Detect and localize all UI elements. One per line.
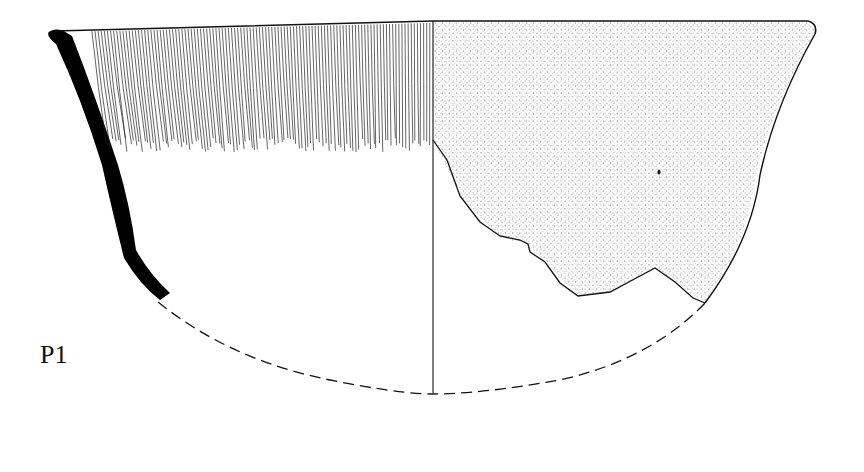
hatch-stroke bbox=[377, 24, 379, 143]
hatch-stroke bbox=[417, 23, 418, 143]
hatch-stroke bbox=[405, 24, 406, 149]
hatch-stroke bbox=[411, 24, 413, 144]
hatch-stroke bbox=[303, 26, 308, 147]
hatch-stroke bbox=[414, 23, 415, 140]
inclusion-mark bbox=[657, 169, 660, 174]
hatch-stroke bbox=[293, 26, 299, 148]
hatch-stroke bbox=[399, 24, 400, 144]
hatch-stroke bbox=[390, 24, 392, 145]
hatch-stroke bbox=[157, 30, 168, 147]
hatch-stroke bbox=[272, 27, 279, 143]
hatch-stroke bbox=[355, 25, 358, 150]
hatch-stroke bbox=[383, 24, 386, 140]
hatch-stroke bbox=[324, 26, 329, 151]
hatch-stroke bbox=[253, 27, 260, 138]
hatch-stroke bbox=[393, 24, 396, 138]
figure-canvas: P1 bbox=[0, 0, 864, 472]
hatch-stroke bbox=[176, 29, 187, 145]
hatch-stroke bbox=[284, 27, 290, 140]
hatch-stroke bbox=[402, 24, 403, 148]
hatch-stroke bbox=[297, 26, 303, 148]
hatch-stroke bbox=[396, 24, 397, 145]
reconstructed-base bbox=[158, 302, 705, 394]
hatch-stroke bbox=[163, 30, 174, 140]
hatch-stroke bbox=[368, 25, 371, 149]
hatch-stroke bbox=[386, 24, 387, 140]
hatch-stroke bbox=[371, 25, 375, 145]
hatch-stroke bbox=[365, 25, 369, 144]
hatch-stroke bbox=[380, 24, 383, 152]
hatching-zone bbox=[92, 23, 430, 152]
hatch-stroke bbox=[120, 31, 134, 141]
hatch-stroke bbox=[331, 26, 336, 151]
hatch-stroke bbox=[408, 24, 409, 151]
hatch-stroke bbox=[241, 28, 250, 141]
hatch-stroke bbox=[179, 29, 190, 150]
vessel-drawing bbox=[0, 0, 864, 472]
figure-label: P1 bbox=[40, 342, 67, 368]
hatch-stroke bbox=[374, 24, 376, 148]
stippled-dense-edge bbox=[433, 22, 814, 303]
hatch-stroke bbox=[219, 28, 229, 143]
